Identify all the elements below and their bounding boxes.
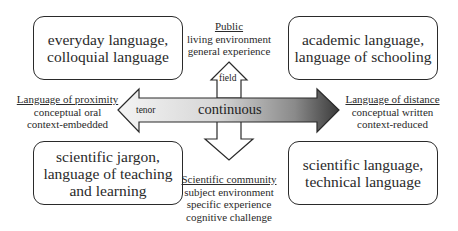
pole-language-of-distance: Language of distance conceptual written … (335, 93, 450, 131)
pole-scientific-community: Scientific community subject environment… (174, 173, 284, 223)
pole-heading: Scientific community (174, 173, 284, 186)
field-arrow-down (205, 121, 253, 160)
box-line: technical language (303, 173, 424, 190)
box-line: and learning (43, 182, 172, 199)
box-line: colloquial language (47, 48, 169, 65)
pole-heading: Language of proximity (10, 93, 125, 106)
box-line: scientific jargon, (43, 148, 172, 165)
box-line: scientific language, (303, 156, 424, 173)
pole-line: conceptual written (335, 106, 450, 119)
box-line: everyday language, (47, 31, 169, 48)
pole-line: subject environment (174, 186, 284, 199)
pole-line: cognitive challenge (174, 211, 284, 224)
pole-heading: Language of distance (335, 93, 450, 106)
pole-line: context-reduced (335, 118, 450, 131)
field-label: field (219, 73, 236, 83)
pole-public: Public living environment general experi… (179, 20, 279, 58)
pole-line: specific experience (174, 198, 284, 211)
continuous-label: continuous (198, 101, 262, 118)
pole-line: context-embedded (10, 118, 125, 131)
pole-line: living environment (179, 33, 279, 46)
pole-heading: Public (179, 20, 279, 33)
box-line: language of schooling (295, 48, 432, 65)
box-academic-language: academic language, language of schooling (288, 16, 438, 80)
pole-line: conceptual oral (10, 106, 125, 119)
tenor-label: tenor (136, 105, 156, 115)
box-line: language of teaching (43, 165, 172, 182)
box-line: academic language, (295, 31, 432, 48)
box-scientific-jargon: scientific jargon, language of teaching … (33, 141, 183, 205)
box-everyday-language: everyday language, colloquial language (33, 16, 183, 80)
pole-language-of-proximity: Language of proximity conceptual oral co… (10, 93, 125, 131)
pole-line: general experience (179, 45, 279, 58)
box-scientific-language: scientific language, technical language (288, 141, 438, 205)
